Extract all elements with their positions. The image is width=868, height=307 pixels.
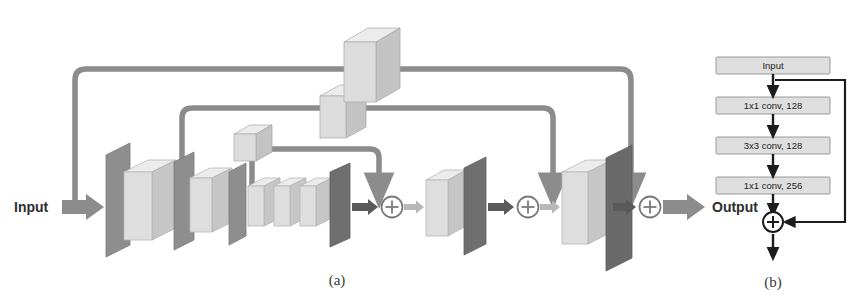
panel-b-merge-node: [763, 212, 783, 232]
block-label: Input: [762, 60, 783, 71]
feature-map: [229, 163, 246, 245]
panel-a-caption: (a): [329, 272, 346, 289]
block-face: [248, 186, 264, 226]
encoder-stage-2: [174, 152, 232, 250]
cube-face: [344, 42, 376, 102]
panel-b-block-3: 1x1 conv, 256: [716, 177, 830, 194]
block-face: [300, 186, 316, 226]
input-arrow: [62, 194, 104, 220]
bottleneck-feature-map: [330, 163, 350, 247]
architecture-diagram: Input: [0, 0, 868, 307]
skip-cube-small: [234, 125, 272, 161]
panel-b-block-0: Input: [716, 57, 830, 74]
block-side: [152, 160, 176, 240]
encoder-stage-3: [229, 163, 246, 245]
panel-b-block-2: 3x3 conv, 128: [716, 137, 830, 154]
figure-root: Input: [0, 0, 868, 307]
block-label: 1x1 conv, 128: [744, 100, 802, 111]
block-label: 3x3 conv, 128: [744, 140, 802, 151]
cube-face: [320, 96, 346, 138]
cube-face: [234, 134, 256, 161]
panel-b-caption: (b): [764, 274, 782, 291]
feature-map: [464, 157, 486, 255]
panel-b: Input 1x1 conv, 128 3x3 conv, 128 1x1 co…: [716, 57, 845, 291]
output-arrow: [663, 194, 705, 220]
panel-b-block-1: 1x1 conv, 128: [716, 97, 830, 114]
bottleneck-block-3: [300, 178, 332, 226]
block-label: 1x1 conv, 256: [744, 180, 802, 191]
block-face: [562, 172, 588, 244]
panel-a-output-label: Output: [712, 199, 758, 215]
block-face: [190, 178, 212, 232]
merge-node-2: [488, 197, 560, 218]
panel-a-input-label: Input: [14, 199, 49, 215]
block-side: [448, 170, 466, 236]
block-face: [426, 180, 448, 236]
block-face: [274, 186, 290, 226]
encoder-stage-1: [106, 143, 176, 257]
skip-cube-large: [344, 28, 400, 102]
decoder-stage-1: [426, 157, 486, 255]
merge-node-1: [352, 197, 424, 218]
block-face: [124, 172, 152, 240]
panel-a: Input: [14, 28, 758, 289]
